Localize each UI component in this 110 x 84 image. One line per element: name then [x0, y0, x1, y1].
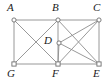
vertex-g[interactable]: [12, 62, 16, 66]
vertex-label-g: G: [7, 68, 15, 79]
vertex-e[interactable]: [97, 62, 101, 66]
vertices-group: [12, 18, 101, 66]
vertex-label-a: A: [7, 2, 14, 13]
vertex-f[interactable]: [56, 62, 60, 66]
edge-d-e: [59, 43, 99, 64]
vertex-a[interactable]: [12, 18, 16, 22]
vertex-d[interactable]: [57, 41, 61, 45]
edges-group: [14, 20, 99, 64]
vertex-c[interactable]: [97, 18, 101, 22]
vertex-label-c: C: [93, 2, 100, 13]
graph-figure: ABCDGFE: [0, 0, 110, 84]
vertex-label-e: E: [93, 68, 100, 79]
vertex-b[interactable]: [56, 18, 60, 22]
vertex-label-d: D: [44, 35, 52, 46]
vertex-label-f: F: [52, 68, 59, 79]
edge-d-c: [59, 20, 99, 43]
vertex-label-b: B: [52, 2, 59, 13]
